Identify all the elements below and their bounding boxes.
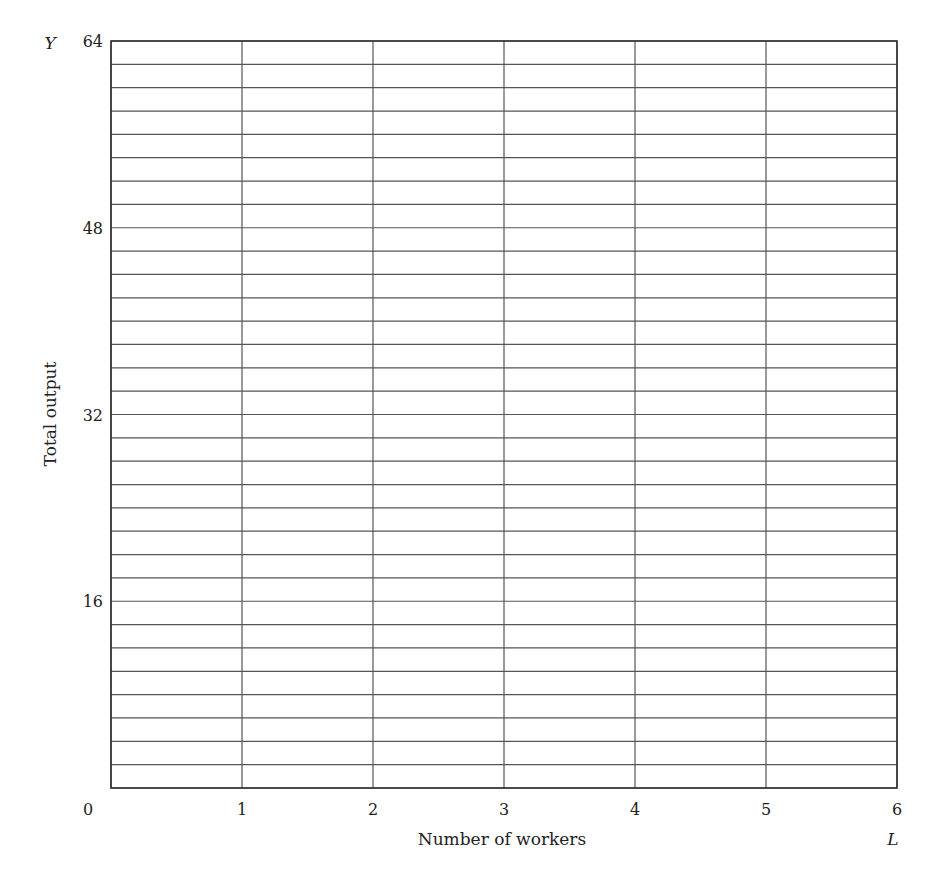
- x-tick-label: 1: [237, 800, 247, 819]
- y-tick-label: 32: [83, 406, 103, 425]
- x-tick-label: 4: [630, 800, 640, 819]
- x-tick-label: 5: [761, 800, 771, 819]
- y-tick-labels: 16324864: [83, 32, 103, 611]
- y-axis-label: Total output: [40, 361, 60, 466]
- x-tick-label: 2: [368, 800, 378, 819]
- x-axis-label: Number of workers: [418, 829, 586, 849]
- plot-grid: [111, 41, 897, 788]
- chart-svg: 123456 16324864 0 Y L Number of workers …: [0, 0, 929, 874]
- x-tick-labels: 123456: [237, 800, 902, 819]
- origin-label: 0: [83, 800, 93, 819]
- y-tick-label: 16: [83, 592, 103, 611]
- y-axis-symbol: Y: [44, 33, 57, 53]
- x-tick-label: 3: [499, 800, 509, 819]
- y-tick-label: 64: [83, 32, 103, 51]
- x-tick-label: 6: [892, 800, 902, 819]
- y-tick-label: 48: [83, 219, 103, 238]
- x-axis-symbol: L: [886, 829, 898, 849]
